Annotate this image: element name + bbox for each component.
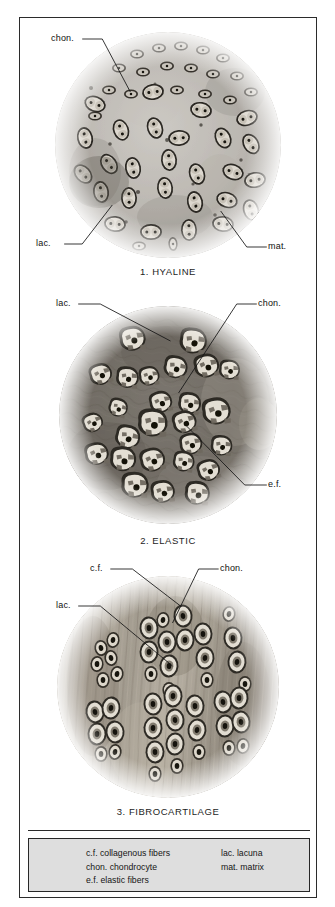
label-chon-hyaline: chon. — [51, 33, 74, 43]
panel-hyaline: chon. lac. mat. 1. HYALINE — [20, 18, 316, 286]
caption-elastic: 2. ELASTIC — [20, 535, 316, 546]
micrograph-fibrocartilage — [57, 576, 279, 798]
caption-fibrocartilage: 3. FIBROCARTILAGE — [20, 806, 316, 817]
label-mat-hyaline: mat. — [268, 241, 286, 251]
label-lac-fibrocartilage: lac. — [56, 600, 71, 610]
label-lac-elastic: lac. — [56, 298, 71, 308]
panel-fibrocartilage: c.f. chon. lac. 3. FIBROCARTILAGE — [20, 558, 316, 830]
legend-divider — [28, 830, 310, 831]
legend-column-left: c.f. collagenous fibers chon. chondrocyt… — [86, 847, 170, 888]
legend-entry-mat: mat. matrix — [221, 861, 264, 875]
label-lac-hyaline: lac. — [36, 238, 51, 248]
legend-box: c.f. collagenous fibers chon. chondrocyt… — [28, 838, 310, 892]
label-cf-fibrocartilage: c.f. — [90, 563, 103, 573]
cartilage-plate: chon. lac. mat. 1. HYALINE — [0, 0, 335, 907]
caption-hyaline: 1. HYALINE — [20, 266, 316, 277]
panel-elastic: lac. chon. e.f. 2. ELASTIC — [20, 286, 316, 558]
legend-column-right: lac. lacuna mat. matrix — [221, 847, 264, 874]
legend-entry-ef: e.f. elastic fibers — [86, 874, 170, 888]
plate-frame: chon. lac. mat. 1. HYALINE — [19, 17, 317, 898]
label-chon-fibrocartilage: chon. — [220, 563, 243, 573]
micrograph-elastic — [59, 306, 277, 524]
legend-entry-chon: chon. chondrocyte — [86, 861, 170, 875]
legend-entry-cf: c.f. collagenous fibers — [86, 847, 170, 861]
micrograph-hyaline — [55, 32, 281, 258]
legend-entry-lac: lac. lacuna — [221, 847, 264, 861]
label-ef-elastic: e.f. — [268, 479, 281, 489]
label-chon-elastic: chon. — [258, 298, 281, 308]
